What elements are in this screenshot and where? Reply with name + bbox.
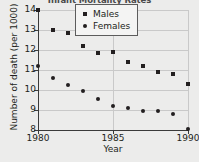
data-point-males xyxy=(111,50,115,54)
legend-item-males: Males xyxy=(80,8,130,20)
data-point-females xyxy=(36,64,40,68)
data-point-males xyxy=(156,70,160,74)
data-point-males xyxy=(51,28,55,32)
data-point-males xyxy=(126,60,130,64)
data-point-males xyxy=(141,64,145,68)
y-tick-label: 11 xyxy=(16,65,36,74)
data-point-females xyxy=(186,127,190,131)
data-point-females xyxy=(141,109,145,113)
data-point-females xyxy=(66,83,70,87)
x-axis-title: Year xyxy=(38,144,188,154)
data-point-males xyxy=(66,31,70,35)
x-tick-label: 1990 xyxy=(168,134,199,143)
data-point-males xyxy=(36,8,40,12)
square-marker-icon xyxy=(80,12,90,16)
y-tick-label: 12 xyxy=(16,45,36,54)
data-point-males xyxy=(171,72,175,76)
data-point-females xyxy=(51,76,55,80)
data-point-males xyxy=(96,51,100,55)
gridline-vertical xyxy=(188,10,189,130)
y-tick-label: 13 xyxy=(16,25,36,34)
data-point-males xyxy=(81,44,85,48)
data-point-females xyxy=(171,112,175,116)
data-point-females xyxy=(156,109,160,113)
data-point-females xyxy=(96,97,100,101)
data-point-males xyxy=(186,82,190,86)
y-tick-label: 14 xyxy=(16,5,36,14)
legend-item-females: Females xyxy=(80,20,130,32)
x-tick-label: 1980 xyxy=(18,134,58,143)
infant-mortality-scatter-chart: Infant Mortality Rates Number of death (… xyxy=(0,0,199,162)
y-tick-label: 9 xyxy=(16,105,36,114)
circle-marker-icon xyxy=(80,24,90,28)
data-point-females xyxy=(111,104,115,108)
x-tick-label: 1985 xyxy=(93,134,133,143)
y-tick-label: 10 xyxy=(16,85,36,94)
chart-legend: Males Females xyxy=(75,4,138,36)
y-axis-line xyxy=(38,10,39,130)
legend-label-males: Males xyxy=(93,10,119,19)
data-point-females xyxy=(81,89,85,93)
legend-label-females: Females xyxy=(93,22,130,31)
